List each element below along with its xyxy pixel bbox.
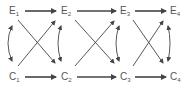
node-c3: C3 [120, 72, 131, 85]
arrow-e1-c2 [18, 20, 55, 63]
curve-e1-c1 [8, 26, 12, 61]
arrow-e3-c4 [133, 20, 163, 63]
diagram-edges [0, 0, 185, 87]
node-e2: E2 [61, 6, 71, 19]
node-c4: C4 [170, 72, 181, 85]
curve-e3-c3 [116, 26, 119, 61]
curve-e2-c2 [58, 26, 61, 61]
arrow-c3-e4 [133, 21, 163, 66]
node-e1: E1 [9, 6, 19, 19]
node-e3: E3 [120, 6, 130, 19]
arrow-e2-c3 [75, 20, 114, 63]
arrow-c1-e2 [18, 21, 55, 66]
arrow-c2-e3 [75, 21, 114, 66]
curve-e4-c4 [168, 26, 170, 61]
node-c2: C2 [61, 72, 72, 85]
node-e4: E4 [170, 6, 180, 19]
node-c1: C1 [9, 72, 20, 85]
